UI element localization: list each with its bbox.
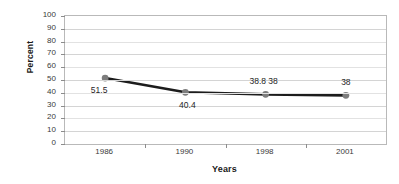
x-tick-label: 1990 (175, 147, 193, 156)
x-tick-label: 2001 (336, 147, 354, 156)
y-tick-label: 100 (26, 11, 56, 19)
x-tick-label: 1986 (95, 147, 113, 156)
gridline (65, 42, 386, 43)
y-tick-mark (61, 93, 65, 94)
y-tick-label: 50 (26, 75, 56, 83)
y-tick-mark (61, 80, 65, 81)
gridline (65, 29, 386, 30)
gridline (65, 118, 386, 119)
line-chart: Percent 0102030405060708090100 51.540.43… (0, 0, 399, 184)
x-axis-tick-labels: 1986199019982001 (64, 147, 385, 159)
data-point-label: 40.4 (179, 101, 196, 110)
y-tick-label: 0 (26, 139, 56, 147)
y-tick-mark (61, 67, 65, 68)
y-tick-label: 60 (26, 62, 56, 70)
plot-area: 51.540.438.8 3838 (64, 15, 387, 145)
y-tick-label: 90 (26, 24, 56, 32)
gridline (65, 80, 386, 81)
data-point-label: 38 (341, 78, 350, 87)
gridline (65, 106, 386, 107)
data-point-label: 51.5 (91, 86, 108, 95)
y-tick-label: 70 (26, 49, 56, 57)
y-tick-mark (61, 16, 65, 17)
y-tick-label: 40 (26, 88, 56, 96)
y-axis-tick-labels: 0102030405060708090100 (26, 15, 56, 143)
gridline (65, 93, 386, 94)
gridline (65, 54, 386, 55)
data-point-label: 38.8 38 (249, 77, 277, 86)
y-tick-label: 30 (26, 101, 56, 109)
y-tick-label: 10 (26, 126, 56, 134)
y-tick-mark (61, 106, 65, 107)
y-tick-mark (61, 42, 65, 43)
y-tick-mark (61, 131, 65, 132)
x-tick-label: 1998 (256, 147, 274, 156)
y-tick-label: 20 (26, 113, 56, 121)
x-axis-title: Years (64, 164, 385, 174)
y-tick-label: 80 (26, 37, 56, 45)
y-tick-mark (61, 118, 65, 119)
gridline (65, 67, 386, 68)
y-tick-mark (61, 144, 65, 145)
y-tick-mark (61, 29, 65, 30)
y-tick-mark (61, 54, 65, 55)
gridline (65, 131, 386, 132)
